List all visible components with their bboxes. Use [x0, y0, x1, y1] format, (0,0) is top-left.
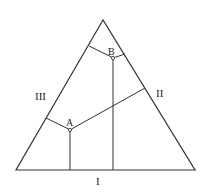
a-to-right-line: [72, 88, 146, 129]
point-a-label: A: [66, 117, 74, 128]
side-right-label: II: [156, 87, 164, 99]
point-b-label: B: [108, 46, 115, 57]
side-bottom-label: I: [96, 175, 100, 187]
ternary-diagram: A B III II I: [0, 0, 209, 193]
side-left-label: III: [35, 90, 46, 102]
b-to-right-line: [115, 54, 126, 58]
point-a-marker: [68, 128, 71, 131]
